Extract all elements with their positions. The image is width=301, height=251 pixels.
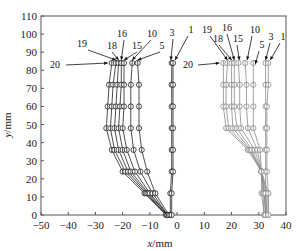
y-tick-label: 0 (32, 209, 38, 221)
y-tick-label: 50 (26, 119, 38, 131)
arrow-head-icon (246, 56, 249, 60)
x-tick-label: −10 (141, 219, 159, 231)
y-axis-title: y/mm (1, 112, 13, 139)
y-tick-label: 70 (26, 82, 38, 94)
arrow-head-icon (265, 56, 268, 60)
curve-label: 1 (189, 24, 194, 35)
curve-label: 3 (170, 27, 175, 38)
y-tick-label: 20 (26, 173, 38, 185)
x-axis-title: x/mm (146, 237, 173, 249)
y-axis: 0102030405060708090100110 (21, 10, 45, 221)
y-tick-label: 80 (26, 64, 38, 76)
y-tick-label: 40 (26, 137, 38, 149)
curve-label: 15 (132, 40, 142, 51)
arrow-head-icon (216, 62, 220, 65)
arrow-head-icon (104, 61, 108, 64)
curve-label: 5 (260, 39, 265, 50)
y-tick-label: 100 (21, 28, 38, 40)
curve-label: 10 (147, 28, 157, 39)
x-tick-label: −40 (60, 219, 78, 231)
curve-label: 19 (77, 38, 87, 49)
y-tick-label: 30 (26, 155, 38, 167)
y-tick-label: 60 (26, 100, 38, 112)
curve-label: 3 (269, 31, 274, 42)
x-tick-label: −20 (114, 219, 132, 231)
arrow-head-icon (138, 57, 142, 60)
curve-label: 16 (222, 22, 232, 33)
chart: −50−40−30−20−10010203040 010203040506070… (0, 0, 301, 251)
curve-label: 10 (250, 24, 260, 35)
arrow-head-icon (224, 56, 228, 60)
x-tick-label: −30 (87, 219, 105, 231)
x-tick-label: 0 (174, 219, 180, 231)
curve-label: 16 (117, 28, 127, 39)
y-tick-label: 10 (26, 191, 38, 203)
arrow-head-icon (112, 57, 116, 60)
curve-label: 19 (202, 24, 212, 35)
y-tick-label: 90 (26, 46, 38, 58)
curve-label: 20 (50, 59, 60, 70)
arrow-head-icon (237, 56, 240, 60)
x-tick-label: 10 (199, 219, 211, 231)
annotation-layer: 201918161510531201918161510531 (50, 22, 286, 70)
curve-label: 18 (213, 33, 223, 44)
curve-label: 15 (233, 33, 243, 44)
x-tick-label: 20 (226, 219, 238, 231)
curve-label: 20 (183, 59, 193, 70)
x-tick-label: 40 (281, 219, 293, 231)
curve-label: 18 (107, 40, 117, 51)
x-tick-label: 30 (253, 219, 265, 231)
curve-label: 1 (281, 31, 286, 42)
curve-label: 5 (160, 40, 165, 51)
y-tick-label: 110 (21, 10, 38, 22)
series-layer (104, 60, 271, 217)
